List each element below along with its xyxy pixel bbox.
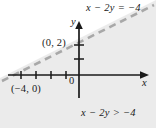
boundary-equation-label: x − 2y = −4 bbox=[86, 3, 141, 14]
bottom-margin-strip bbox=[0, 128, 156, 133]
origin-label: 0 bbox=[69, 76, 74, 87]
y-intercept-point-label: (0, 2) bbox=[42, 38, 66, 49]
x-axis-label: x bbox=[142, 78, 147, 89]
x-intercept-point-label: (−4, 0) bbox=[11, 84, 41, 95]
y-axis-label: y bbox=[71, 17, 76, 28]
inequality-graph-figure: x − 2y = −4 x − 2y > −4 (0, 2) (−4, 0) y… bbox=[0, 0, 156, 133]
inequality-label: x − 2y > −4 bbox=[81, 108, 136, 119]
y-axis-arrow-icon bbox=[75, 21, 83, 29]
